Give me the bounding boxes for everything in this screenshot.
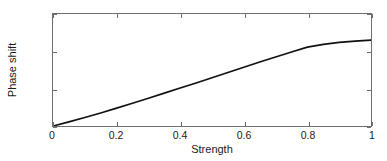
x-tick-top-1 [372,14,373,18]
y-axis-title-text: Phase shift [6,43,18,97]
y-axis-title: Phase shift [5,13,19,127]
x-tick-0.4 [181,122,182,126]
x-tick-label-1: 1 [369,129,375,141]
y-tick-right-0.5 [367,90,371,91]
x-tick-top-0.2 [117,14,118,18]
x-tick-label-0.8: 0.8 [301,129,316,141]
y-tick-0.5 [53,90,57,91]
y-tick-1.5 [53,14,57,15]
x-tick-0.8 [309,122,310,126]
phase-shift-curve [53,40,371,126]
x-tick-top-0.8 [309,14,310,18]
data-line-series [53,14,371,126]
figure-chart-phase-shift-vs-strength: Phase shift 00.511.5 00.20.40.60.81 Stre… [0,0,387,161]
plot-area [52,13,372,127]
x-tick-label-0.6: 0.6 [237,129,252,141]
y-tick-right-0 [367,127,371,128]
x-tick-top-0.6 [245,14,246,18]
x-tick-label-0: 0 [49,129,55,141]
x-tick-0.2 [117,122,118,126]
x-tick-0 [53,122,54,126]
x-tick-0.6 [245,122,246,126]
x-tick-1 [372,122,373,126]
x-tick-label-0.4: 0.4 [173,129,188,141]
y-tick-right-1.5 [367,14,371,15]
y-tick-0 [53,127,57,128]
x-tick-label-0.2: 0.2 [109,129,124,141]
y-tick-1 [53,52,57,53]
x-tick-top-0.4 [181,14,182,18]
x-axis-title: Strength [52,143,372,156]
y-tick-right-1 [367,52,371,53]
